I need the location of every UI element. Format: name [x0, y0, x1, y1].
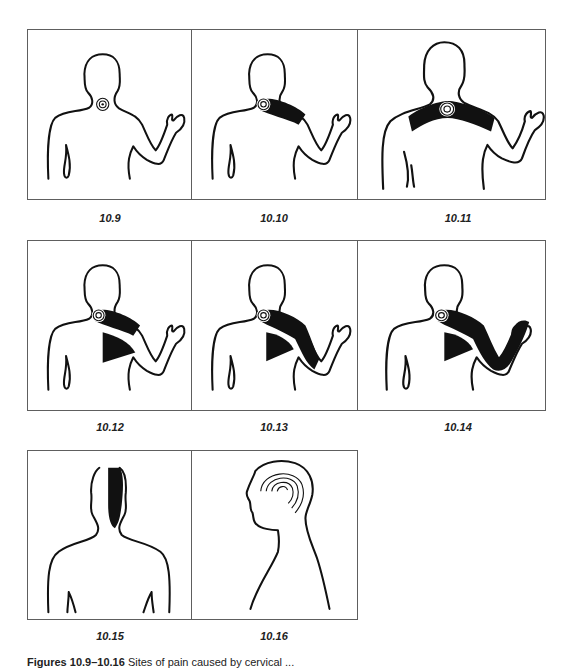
pain-region-scapula [266, 332, 294, 361]
figure-panel-10-11 [357, 29, 546, 200]
figure-label: 10.14 [418, 421, 498, 433]
caption-text: Sites of pain caused by cervical ... [128, 656, 294, 668]
body-back-illustration [28, 241, 191, 410]
pain-region-scapula [444, 332, 473, 361]
figure-label: 10.16 [234, 630, 314, 642]
figure-panel-10-13 [191, 240, 358, 411]
pain-region-scapula [103, 332, 136, 362]
pain-region-top-of-head [261, 474, 304, 513]
pain-region-back-head-neck [108, 468, 123, 528]
figure-panel-10-12 [27, 240, 192, 411]
figure-panel-10-10 [191, 29, 358, 200]
figure-panel-10-16 [191, 450, 358, 620]
figure-label: 10.12 [70, 421, 150, 433]
caption-prefix: Figures 10.9–10.16 [27, 656, 125, 668]
figure-panel-10-15 [27, 450, 192, 620]
figure-label: 10.9 [70, 212, 150, 224]
body-back-illustration [358, 30, 545, 199]
body-back-illustration [192, 30, 357, 199]
pain-region-neck-shoulder [257, 98, 306, 125]
body-back-illustration [358, 241, 545, 410]
figure-caption: Figures 10.9–10.16 Sites of pain caused … [27, 656, 294, 668]
figure-label: 10.10 [234, 212, 314, 224]
figure-panel-10-9 [27, 29, 192, 200]
profile-head-illustration [192, 451, 357, 619]
body-back-illustration [28, 451, 191, 619]
pain-target-icon [97, 98, 109, 110]
figure-label: 10.11 [418, 212, 498, 224]
body-back-illustration [192, 241, 357, 410]
figure-label: 10.13 [234, 421, 314, 433]
figure-panel-10-14 [357, 240, 546, 411]
body-back-illustration [28, 30, 191, 199]
figure-label: 10.15 [70, 630, 150, 642]
